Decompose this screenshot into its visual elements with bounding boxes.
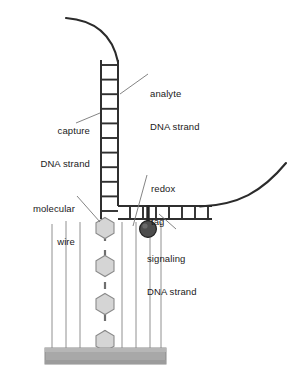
label-molecular-wire-line2: wire xyxy=(8,236,75,247)
figure-canvas: analyte DNA strand capture DNA strand re… xyxy=(0,0,291,374)
label-redox-line2: tag xyxy=(151,216,175,227)
label-signaling-line2: DNA strand xyxy=(147,286,197,297)
base-pair-rungs xyxy=(101,65,118,211)
label-molecular-wire-line1: molecular xyxy=(8,203,75,214)
molecular-wire-assembly xyxy=(96,218,114,353)
vertical-dna-duplex xyxy=(101,60,118,219)
label-analyte-line2: DNA strand xyxy=(150,121,200,132)
leader-line-molecular-wire xyxy=(77,196,100,222)
label-analyte-dna-strand: analyte DNA strand xyxy=(150,66,200,154)
redox-tag-highlight xyxy=(142,223,147,228)
hexagon-unit xyxy=(96,294,114,315)
analyte-strand-right-curve xyxy=(200,163,286,207)
label-capture-line1: capture xyxy=(10,125,90,136)
hexagon-unit xyxy=(96,256,114,277)
leader-line-analyte xyxy=(120,74,148,94)
label-redox-line1: redox xyxy=(151,183,175,194)
analyte-strand-upper-curve xyxy=(66,18,118,62)
label-analyte-line1: analyte xyxy=(150,88,200,99)
label-capture-dna-strand: capture DNA strand xyxy=(10,103,90,191)
electrode-substrate xyxy=(45,348,166,364)
label-molecular-wire: molecular wire xyxy=(8,181,75,269)
label-signaling-dna-strand: signaling DNA strand xyxy=(147,231,197,319)
label-capture-line2: DNA strand xyxy=(10,158,90,169)
label-signaling-line1: signaling xyxy=(147,253,197,264)
